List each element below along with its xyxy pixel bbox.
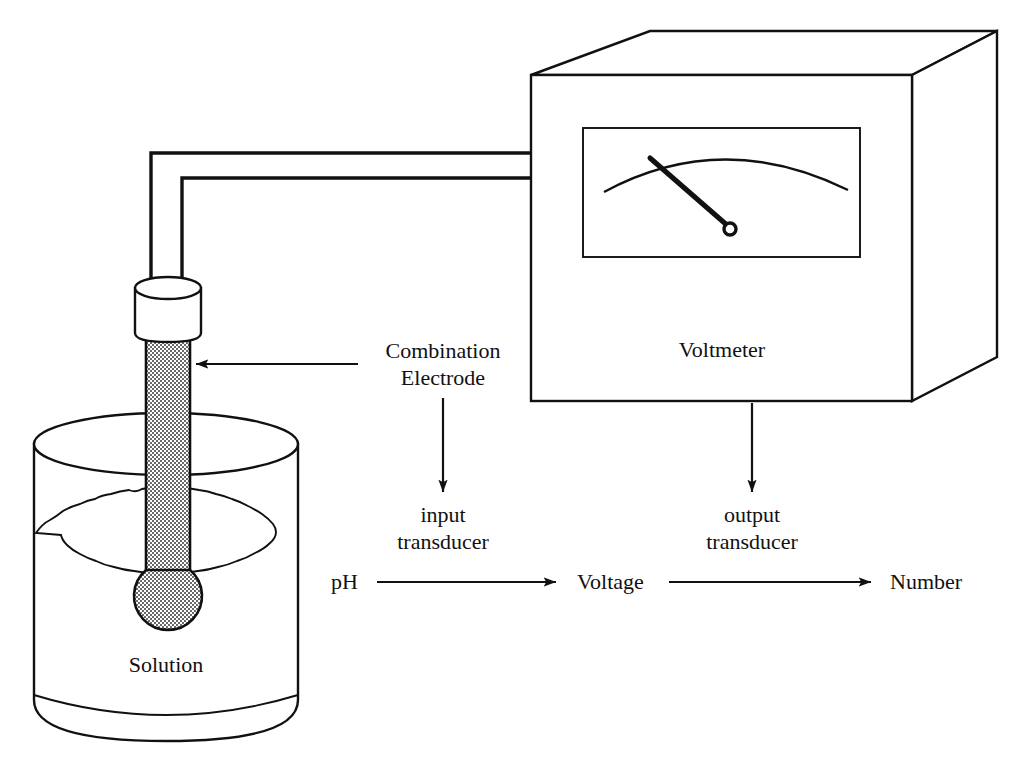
diagram-canvas: Voltmeter Solution — [0, 0, 1018, 762]
electrode-cap-top — [135, 277, 201, 299]
lead-wires — [151, 153, 531, 282]
upper-lead-wire — [151, 153, 531, 282]
output-transducer-label-line1: output — [724, 502, 780, 527]
combination-electrode-label-line2: Electrode — [401, 365, 485, 390]
output-transducer-label-line2: transducer — [706, 529, 798, 554]
lower-lead-wire — [182, 178, 531, 282]
voltmeter-display-window — [583, 128, 860, 257]
electrode-stem — [146, 337, 190, 585]
signal-node-ph: pH — [331, 569, 358, 594]
diagram-root: Voltmeter Solution — [0, 0, 1018, 762]
voltmeter-right-face — [912, 31, 997, 401]
electrode-bulb — [134, 570, 202, 630]
voltmeter-label: Voltmeter — [679, 337, 766, 362]
input-transducer-label-line1: input — [420, 502, 465, 527]
signal-chain: pH Voltage Number — [331, 569, 963, 594]
meter-needle-pivot — [724, 223, 736, 235]
voltmeter: Voltmeter — [531, 31, 997, 401]
signal-node-voltage: Voltage — [577, 569, 644, 594]
signal-node-number: Number — [890, 569, 963, 594]
input-transducer-label-line2: transducer — [397, 529, 489, 554]
combination-electrode-label-line1: Combination — [386, 338, 501, 363]
solution-label: Solution — [129, 652, 204, 677]
